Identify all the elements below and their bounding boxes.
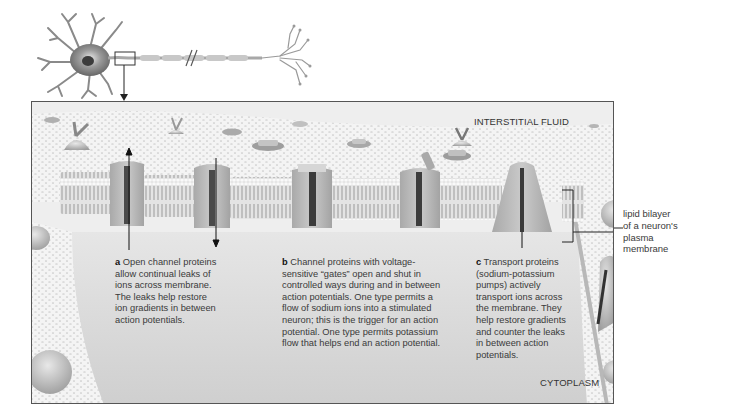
channel-pore bbox=[309, 172, 316, 226]
pump-channel bbox=[520, 168, 524, 232]
cytoplasm-label: CYTOPLASM bbox=[540, 377, 599, 388]
gate-open bbox=[298, 164, 326, 172]
channel-pore bbox=[416, 172, 422, 226]
terminal-boutons bbox=[293, 25, 312, 86]
membrane-cross-section-panel: INTERSTITIAL FLUID CYTOPLASM a Open chan… bbox=[31, 101, 614, 404]
nucleus bbox=[82, 56, 94, 66]
neuron-overview-illustration bbox=[0, 0, 738, 105]
caption-b-letter: b bbox=[282, 257, 288, 267]
open-channel-protein-2 bbox=[194, 164, 230, 228]
axon-terminals bbox=[262, 26, 310, 84]
caption-c-letter: c bbox=[476, 257, 481, 267]
caption-c: c Transport proteins (sodium-potassium p… bbox=[476, 257, 596, 361]
caption-a-letter: a bbox=[115, 257, 120, 267]
interstitial-fluid-label: INTERSTITIAL FLUID bbox=[474, 116, 569, 127]
caption-b: b Channel proteins with voltage- sensiti… bbox=[282, 257, 482, 350]
lipid-bilayer-label: lipid bilayer of a neuron's plasma membr… bbox=[623, 208, 678, 255]
curved-membrane-channel bbox=[598, 256, 614, 332]
caption-a: a Open channel proteins allow continual … bbox=[115, 257, 245, 327]
open-channel-protein-1 bbox=[110, 161, 144, 226]
channel-pore bbox=[209, 170, 215, 226]
gated-channel-protein-sodium bbox=[292, 164, 332, 228]
inset-pointer-arrowhead bbox=[120, 94, 128, 101]
